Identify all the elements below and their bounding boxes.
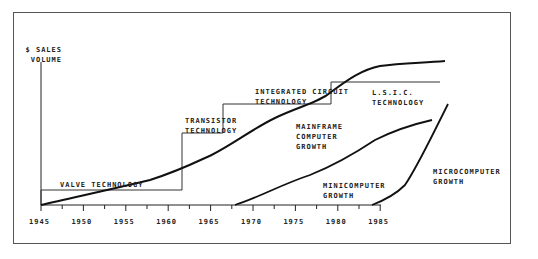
transistor-label: TRANSISTORTECHNOLOGY <box>185 116 237 136</box>
x-tick-label: 1965 <box>199 217 220 227</box>
x-tick-label: 1945 <box>29 217 50 227</box>
x-tick-label: 1960 <box>156 217 177 227</box>
y-axis-label: $ SALESVOLUME <box>20 45 62 65</box>
valve-label: VALVE TECHNOLOGY <box>60 180 143 190</box>
mainframe-label: MAINFRAMECOMPUTERGROWTH <box>296 122 343 152</box>
microcomputer-label: MICROCOMPUTERGROWTH <box>433 167 501 187</box>
x-tick-label: 1970 <box>241 217 262 227</box>
x-tick-label: 1980 <box>326 217 347 227</box>
ic-label: INTEGRATED CIRCUITTECHNOLOGY <box>255 87 349 107</box>
minicomputer-label: MINICOMPUTERGROWTH <box>323 181 386 201</box>
x-axis-ticks <box>41 205 380 211</box>
x-tick-label: 1985 <box>368 217 389 227</box>
x-tick-label: 1950 <box>71 217 92 227</box>
lsic-label: L.S.I.C.TECHNOLOGY <box>372 88 424 108</box>
x-tick-label: 1975 <box>283 217 304 227</box>
x-tick-label: 1955 <box>114 217 135 227</box>
